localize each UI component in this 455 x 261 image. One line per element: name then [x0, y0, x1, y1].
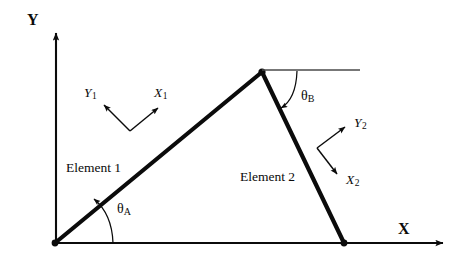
element-1-label: Element 1 [66, 161, 121, 175]
base-right-node [341, 240, 348, 247]
element-2-local-y-axis [317, 127, 345, 148]
element-2-local-x-axis [317, 148, 337, 174]
global-x-axis-label: X [398, 221, 410, 237]
global-y-axis-label: Y [27, 12, 39, 28]
element-1-local-y-subscript: 1 [92, 91, 97, 101]
element-2-local-y-letter: Y [354, 115, 362, 130]
element-1-local-x-axis [130, 108, 158, 131]
element-2-local-x-subscript: 2 [355, 178, 360, 188]
theta-a-subscript: A [124, 206, 131, 217]
element-1-local-y-axis [104, 105, 130, 131]
element-1-local-y-label: Y1 [84, 86, 96, 100]
theta-b-label: θB [301, 89, 314, 103]
theta-b-symbol: θ [301, 88, 308, 103]
element-1-local-y-letter: Y [84, 85, 92, 100]
element-2-local-x-label: X2 [346, 173, 359, 187]
theta-b-arc [281, 71, 297, 108]
element-2-label: Element 2 [240, 170, 295, 184]
element-1-local-x-subscript: 1 [163, 91, 168, 101]
element-2-local-y-label: Y2 [354, 116, 366, 130]
element-2-local-y-subscript: 2 [362, 121, 367, 131]
diagram-canvas [0, 0, 455, 261]
origin-node [52, 240, 59, 247]
element-2-local-x-letter: X [346, 172, 354, 187]
theta-b-subscript: B [308, 93, 315, 104]
element-1-local-x-letter: X [154, 85, 162, 100]
global-axes-group [55, 33, 443, 243]
element-1-local-frame [104, 105, 158, 131]
theta-a-symbol: θ [117, 201, 124, 216]
theta-a-label: θA [117, 202, 131, 216]
frame-element-diagram: Y X Element 1 Element 2 Y1 X1 Y2 X2 θA θ… [0, 0, 455, 261]
element-2-local-frame [317, 127, 345, 174]
element-1-local-x-label: X1 [154, 86, 167, 100]
